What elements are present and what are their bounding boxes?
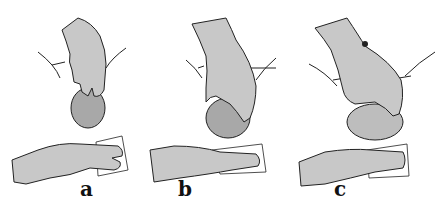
upper-hand: [62, 18, 106, 96]
lower-hand: [299, 149, 405, 186]
panel-c-illustration: [295, 0, 448, 206]
panel-b: b: [140, 0, 300, 206]
panel-label-a: a: [80, 179, 93, 199]
wrist-detail: [362, 41, 368, 47]
lower-hand: [12, 144, 123, 184]
panel-label-c: c: [334, 179, 346, 199]
upper-hand: [315, 18, 403, 116]
panel-c: c: [295, 0, 448, 206]
panel-a-illustration: [0, 0, 150, 206]
panel-label-b: b: [178, 179, 192, 199]
panel-b-illustration: [140, 0, 300, 206]
panel-a: a: [0, 0, 150, 206]
